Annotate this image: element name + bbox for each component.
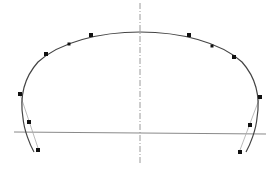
control-point-handle[interactable]	[258, 95, 262, 99]
control-point-handle[interactable]	[232, 55, 236, 59]
control-point-handle[interactable]	[211, 45, 214, 48]
control-point-handle[interactable]	[36, 148, 40, 152]
control-point-handle[interactable]	[44, 52, 48, 56]
diagram-canvas	[0, 0, 280, 172]
control-point-handle[interactable]	[68, 43, 71, 46]
control-point-handle[interactable]	[248, 123, 252, 127]
control-point-handle[interactable]	[27, 120, 31, 124]
control-point-handle[interactable]	[238, 150, 242, 154]
control-point-handle[interactable]	[89, 33, 93, 37]
control-point-handle[interactable]	[18, 92, 22, 96]
control-point-handle[interactable]	[187, 33, 191, 37]
